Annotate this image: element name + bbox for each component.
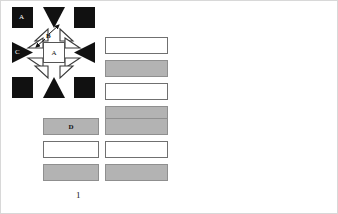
bar [43,164,99,181]
corner-square-bottom-left [12,77,33,98]
bar-group-1-bottom-right [105,118,168,181]
callout-b-label: B [46,32,51,40]
bar-label-d: D [68,123,73,131]
corner-square-top-right [74,7,95,28]
bar-group-1-bottom-left: D [43,118,99,181]
center-label-a: A [51,49,56,57]
bar [105,37,168,54]
motif-radial-starburst: A C [12,7,96,99]
bar [105,118,168,135]
corner-label-a: A [19,14,24,21]
figure-1: A C [1,1,181,214]
corner-square-bottom-right [74,77,95,98]
bar [105,83,168,100]
figure-1-caption: 1 [76,190,81,200]
edge-triangle-bottom [43,77,65,98]
bar [43,141,99,158]
bar [105,164,168,181]
callout-b: B [35,23,65,49]
bar: D [43,118,99,135]
bar-group-1-right [105,37,168,123]
bar [105,141,168,158]
figure-2: 2 [179,1,338,214]
corner-square-top-left: A [12,7,33,28]
hollow-triangle-ll-outer [35,65,49,78]
hollow-triangle-lr-outer [59,65,73,78]
edge-label-c: C [15,49,20,56]
figure-frame: A C [0,0,338,214]
hollow-triangle-ur-inner [64,38,80,49]
bar [105,60,168,77]
